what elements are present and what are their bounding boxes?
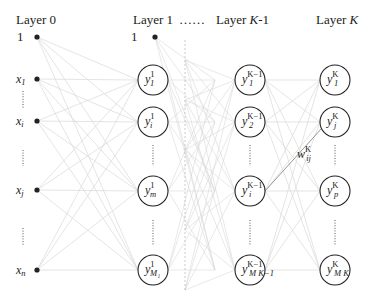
layer-1-bias-label: 1 <box>131 29 138 44</box>
input-label: xn <box>15 263 26 278</box>
layer-1-neuron-label: y1m <box>144 180 156 199</box>
layer-0-bias-label: 1 <box>17 29 24 44</box>
input-dot <box>34 187 39 192</box>
input-dot <box>34 76 39 81</box>
layer-1-title: Layer 1 <box>133 12 173 27</box>
input-dot <box>34 267 39 272</box>
layer-0-bias-dot <box>34 34 39 39</box>
layer-1-bias-dot <box>152 34 157 39</box>
neural-network-diagram: Layer 0 Layer 1 …… Layer K-1 Layer K 11x… <box>0 0 368 302</box>
layer-0-title: Layer 0 <box>16 12 56 27</box>
input-dot <box>34 118 39 123</box>
input-label: xj <box>15 183 24 198</box>
layer-k-title: Layer K <box>316 12 360 27</box>
diagram-foreground: Layer 0 Layer 1 …… Layer K-1 Layer K 11x… <box>0 0 368 302</box>
layer-k-minus-1-neuron-label: yK−1M K−1 <box>241 259 274 278</box>
layer-ellipsis: …… <box>179 12 205 27</box>
layer-1-neuron-label: y11 <box>144 69 155 88</box>
weight-label: wKij <box>297 144 312 163</box>
layer-k-minus-1-title: Layer K-1 <box>216 12 269 27</box>
input-label: x1 <box>15 72 26 87</box>
input-label: xi <box>15 114 24 129</box>
